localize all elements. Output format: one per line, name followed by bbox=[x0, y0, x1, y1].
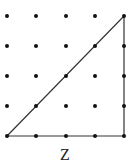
grid-dot bbox=[64, 44, 68, 48]
grid-dot bbox=[93, 74, 97, 78]
grid-dot bbox=[34, 74, 38, 78]
dot-grid-triangle-figure: Z bbox=[0, 0, 134, 166]
grid-dot bbox=[5, 74, 9, 78]
grid-dot bbox=[64, 74, 68, 78]
grid-dot bbox=[93, 44, 97, 48]
grid-dot bbox=[122, 104, 126, 108]
grid-dot bbox=[122, 44, 126, 48]
grid-dot bbox=[64, 134, 68, 138]
grid-dot bbox=[5, 14, 9, 18]
grid-dot bbox=[93, 134, 97, 138]
grid-dot bbox=[34, 104, 38, 108]
grid-dot bbox=[122, 74, 126, 78]
grid-dot bbox=[64, 104, 68, 108]
grid-dot bbox=[34, 14, 38, 18]
grid-dot bbox=[5, 134, 9, 138]
grid-dot bbox=[5, 104, 9, 108]
figure-label: Z bbox=[60, 146, 70, 163]
grid-dot bbox=[34, 44, 38, 48]
grid-dot bbox=[93, 104, 97, 108]
grid-dot bbox=[122, 134, 126, 138]
grid-dot bbox=[34, 134, 38, 138]
grid-dot bbox=[64, 14, 68, 18]
grid-dot bbox=[122, 14, 126, 18]
grid-dot bbox=[5, 44, 9, 48]
grid-dot bbox=[93, 14, 97, 18]
